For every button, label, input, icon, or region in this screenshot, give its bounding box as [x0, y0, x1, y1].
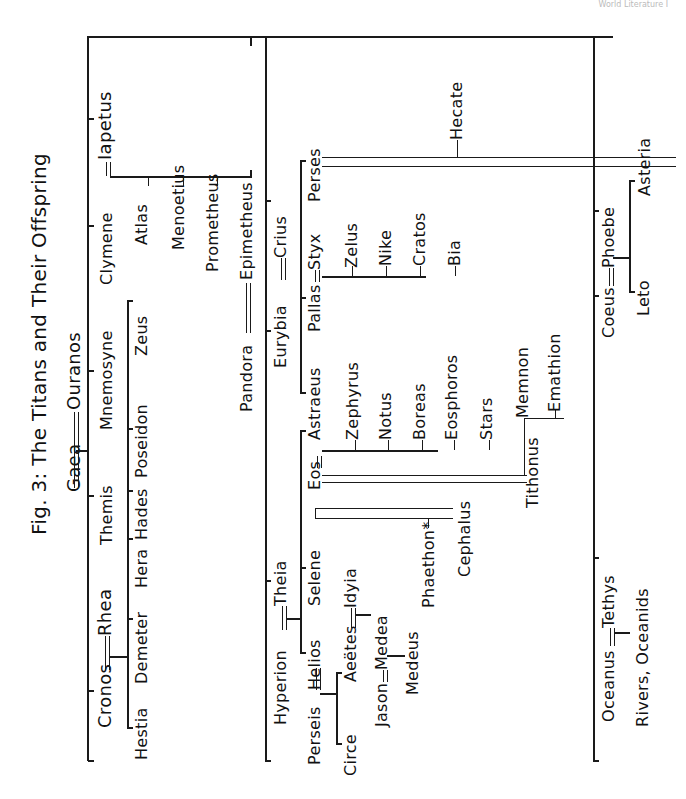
line	[88, 690, 94, 692]
node-themis: Themis	[98, 485, 116, 545]
line	[455, 266, 456, 276]
node-astraeus: Astraeus	[306, 367, 324, 440]
node-clymene: Clymene	[98, 212, 116, 285]
node-boreas: Boreas	[411, 383, 429, 440]
node-stars: Stars	[478, 397, 496, 440]
node-rhea: Rhea	[96, 589, 114, 636]
marriage-line	[316, 668, 317, 690]
line	[593, 210, 599, 212]
node-bia: Bia	[446, 240, 464, 266]
node-crius: Crius	[272, 216, 290, 258]
hyperion-children-bracket	[300, 430, 302, 652]
node-pandora: Pandora	[238, 345, 256, 412]
phoebe-children-bracket	[629, 180, 631, 292]
cronos-children-bracket	[127, 300, 129, 728]
marriage-line	[317, 456, 318, 468]
node-hera: Hera	[133, 549, 151, 588]
line	[148, 176, 149, 186]
node-theia: Theia	[272, 560, 290, 606]
node-pallas: Pallas	[306, 284, 324, 332]
node-oceanus: Oceanus	[600, 650, 618, 722]
marriage-line	[387, 670, 388, 682]
line	[593, 760, 599, 762]
crius-children-bracket	[300, 160, 302, 392]
eos-cephalus-marriage	[315, 508, 453, 509]
marriage-line	[320, 668, 321, 690]
line	[183, 176, 184, 186]
node-rivers-oceanids: Rivers, Oceanids	[634, 588, 652, 727]
marriage-line	[281, 258, 282, 280]
figure-title: Fig. 3: The Titans and Their Offspring	[28, 153, 50, 535]
astraeus-children-bar	[322, 450, 438, 452]
node-ouranos: Ouranos	[65, 332, 83, 410]
line	[388, 440, 389, 450]
node-tethys: Tethys	[600, 575, 618, 628]
running-head: World Literature I	[598, 0, 668, 9]
line	[250, 36, 252, 46]
line	[88, 495, 94, 497]
line	[524, 418, 525, 476]
marriage-line	[319, 270, 320, 282]
node-prometheus: Prometheus	[204, 173, 222, 272]
line	[315, 508, 316, 518]
marriage-line	[610, 628, 611, 646]
node-hades: Hades	[133, 488, 151, 540]
line	[422, 440, 423, 450]
frame-mid-hyperion-branch	[265, 36, 267, 761]
line	[88, 370, 94, 372]
line	[320, 693, 336, 695]
node-epimetheus: Epimetheus	[238, 182, 256, 280]
line	[614, 632, 630, 634]
marriage-line	[106, 162, 107, 176]
node-circe: Circe	[342, 734, 360, 776]
line	[88, 118, 94, 120]
marriage-line	[282, 606, 283, 630]
line	[88, 225, 94, 227]
node-eosphoros: Eosphoros	[443, 355, 461, 440]
perses-asteria-marriage	[322, 157, 676, 158]
line	[265, 760, 271, 762]
marriage-line	[609, 268, 610, 286]
node-perseis: Perseis	[306, 706, 324, 765]
line	[217, 176, 218, 186]
line	[250, 170, 252, 178]
node-tithonus: Tithonus	[524, 437, 542, 508]
line	[265, 200, 271, 202]
node-hyperion: Hyperion	[272, 650, 290, 725]
diagram-canvas: World Literature I Fig. 3: The Titans an…	[0, 0, 686, 799]
marriage-line	[383, 670, 384, 682]
node-idyia: Idyia	[342, 568, 360, 608]
line	[355, 614, 371, 616]
node-zephyrus: Zephyrus	[344, 362, 362, 440]
marriage-line	[321, 456, 322, 468]
marriage-line	[109, 636, 110, 670]
node-memnon: Memnon	[514, 347, 532, 418]
marriage-line	[355, 608, 356, 628]
line	[420, 266, 421, 276]
node-notus: Notus	[377, 392, 395, 440]
line	[613, 257, 629, 259]
node-zeus: Zeus	[133, 316, 151, 356]
marriage-line	[105, 636, 106, 670]
marriage-line	[285, 258, 286, 280]
marriage-line	[74, 412, 75, 488]
line	[524, 418, 564, 419]
line	[593, 557, 599, 559]
marriage-line	[246, 283, 247, 333]
node-jason: Jason	[373, 683, 391, 727]
line	[76, 450, 88, 452]
node-cephalus: Cephalus	[456, 501, 474, 577]
node-atlas: Atlas	[133, 204, 151, 245]
node-medea: Medea	[373, 615, 391, 670]
node-leto: Leto	[635, 280, 653, 316]
line	[300, 430, 306, 432]
node-medeus: Medeus	[404, 631, 422, 695]
node-eurybia: Eurybia	[272, 305, 290, 368]
frame-top	[88, 36, 613, 38]
node-hestia: Hestia	[133, 707, 151, 760]
node-emathion: Emathion	[546, 333, 564, 412]
marriage-line	[250, 283, 251, 333]
line	[286, 618, 300, 620]
node-mnemosyne: Mnemosyne	[98, 330, 116, 430]
frame-left-cronos-branch	[87, 36, 89, 761]
